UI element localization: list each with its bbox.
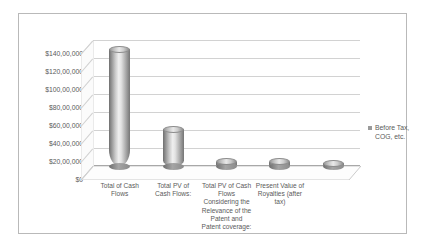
y-axis-tick-label: $120,00,000 <box>45 68 83 75</box>
bar-cylinder[interactable] <box>269 155 290 166</box>
y-axis-tick-label: $100,00,000 <box>45 86 83 93</box>
bar-cylinder[interactable] <box>163 122 184 166</box>
y-axis-tick-label: $20,00,000 <box>49 158 83 165</box>
x-axis: Total of Cash FlowsTotal PV of Cash Flow… <box>93 182 360 247</box>
bar-cylinder-body <box>109 49 130 166</box>
x-axis-category-label: Total PV of Cash Flows: <box>150 182 196 198</box>
bar-cylinder-cap <box>323 160 344 167</box>
bar-cylinder-cap <box>109 46 130 53</box>
chart-frame: $140,00,000$120,00,000$100,00,000$80,00,… <box>18 13 407 234</box>
y-axis-tick-label: $80,00,000 <box>49 104 83 111</box>
bar-cylinder[interactable] <box>323 156 344 166</box>
legend-label-before-tax: Before Tax, COG, etc. <box>375 124 425 141</box>
y-axis-tick-label: $140,00,000 <box>45 50 83 57</box>
x-axis-category-label: Total PV of Cash Flows Considering the R… <box>201 182 253 231</box>
y-axis-tick-label: $60,00,000 <box>49 122 83 129</box>
x-axis-category-label: Total of Cash Flows <box>94 182 146 198</box>
bar-cylinder-base <box>163 163 184 170</box>
x-axis-category-label: Present Value of Royalties (after tax) <box>254 182 306 207</box>
bar-cylinder[interactable] <box>216 155 237 167</box>
bar-cylinder-base <box>109 163 130 170</box>
bar-cylinder-cap <box>216 158 237 165</box>
bar-cylinder[interactable] <box>109 42 130 166</box>
bar-cylinder-body <box>163 129 184 166</box>
chart-legend: Before Tax, COG, etc. <box>368 124 425 141</box>
y-axis-tick-label: $40,00,000 <box>49 140 83 147</box>
y-axis: $140,00,000$120,00,000$100,00,000$80,00,… <box>19 14 83 189</box>
bar-series-group <box>93 40 360 180</box>
bar-cylinder-cap <box>163 126 184 133</box>
legend-swatch-before-tax <box>368 126 372 130</box>
